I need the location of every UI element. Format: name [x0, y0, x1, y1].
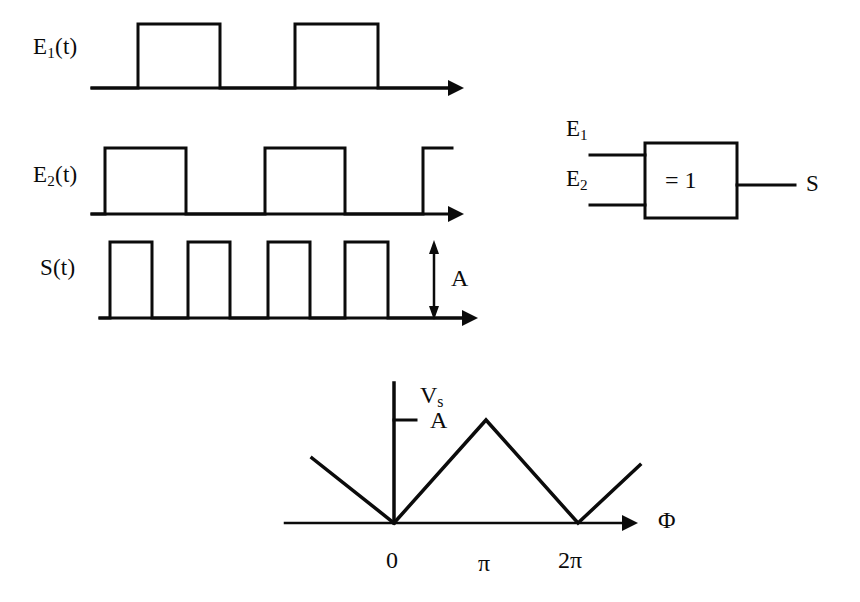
gate-output-label-s: S — [806, 172, 819, 195]
gate-input-label-e1: E1 — [566, 117, 588, 140]
plot-y-axis-label: Vs — [420, 383, 444, 407]
e1-waveform — [92, 24, 448, 88]
amplitude-label-s: A — [451, 266, 468, 290]
plot-x-axis-label: Φ — [658, 508, 676, 532]
gate-input-label-e2: E2 — [566, 167, 588, 190]
waveforms-svg — [0, 0, 860, 602]
transfer-curve — [312, 420, 640, 523]
s-waveform — [100, 242, 462, 318]
transfer-plot-axes — [285, 383, 638, 531]
plot-x-tick-0: 0 — [386, 548, 398, 572]
plot-x-tick-2pi: 2π — [558, 548, 582, 572]
gate-operator-label: = 1 — [665, 168, 697, 192]
signal-label-e1: E1(t) — [33, 35, 77, 58]
plot-amplitude-label: A — [430, 408, 447, 432]
amplitude-arrow — [429, 240, 439, 320]
figure-canvas: E1(t) E2(t) S(t) A E1 E2 = 1 S Vs A Φ 0 … — [0, 0, 860, 602]
plot-x-tick-pi: π — [478, 551, 490, 575]
signal-label-s: S(t) — [40, 256, 75, 279]
signal-label-e2: E2(t) — [33, 163, 77, 186]
e2-waveform — [92, 148, 452, 214]
